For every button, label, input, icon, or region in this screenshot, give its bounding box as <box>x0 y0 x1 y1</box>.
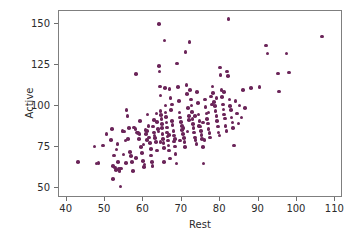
y-tick-mark <box>54 146 58 147</box>
data-point <box>162 146 166 150</box>
data-point <box>231 121 235 125</box>
data-point <box>190 104 194 108</box>
data-point <box>165 121 169 125</box>
data-point <box>220 95 224 99</box>
y-tick-mark <box>54 64 58 65</box>
data-point <box>182 126 186 130</box>
data-point <box>237 122 241 126</box>
data-point <box>249 86 253 90</box>
data-point <box>212 100 216 104</box>
data-point <box>130 160 134 164</box>
data-point <box>186 106 190 110</box>
data-point <box>134 156 138 160</box>
x-tick-label: 90 <box>251 203 264 214</box>
data-point <box>122 130 126 134</box>
data-point <box>162 141 166 145</box>
data-point <box>196 101 200 105</box>
data-point <box>183 140 187 144</box>
data-point <box>116 160 120 164</box>
data-point <box>287 71 291 75</box>
data-point <box>157 22 161 26</box>
data-point <box>225 70 229 74</box>
data-point <box>222 90 226 94</box>
data-point <box>160 126 164 130</box>
data-point <box>165 126 169 130</box>
data-point <box>152 118 156 122</box>
x-tick-mark <box>104 197 105 201</box>
data-point <box>119 185 123 189</box>
data-point <box>167 133 171 137</box>
data-point <box>175 162 179 166</box>
data-point <box>167 149 171 153</box>
data-point <box>266 52 270 56</box>
data-point <box>157 130 161 134</box>
data-point <box>213 104 217 108</box>
data-point <box>207 127 211 131</box>
x-tick-mark <box>334 197 335 201</box>
data-point <box>320 35 324 39</box>
data-point <box>154 140 158 144</box>
data-point <box>153 136 157 140</box>
data-point <box>155 120 159 124</box>
data-point <box>163 39 167 43</box>
data-point <box>128 150 132 154</box>
data-point <box>149 154 153 158</box>
data-point <box>151 164 155 168</box>
data-point <box>186 130 190 134</box>
data-point <box>162 160 166 164</box>
x-tick-label: 60 <box>136 203 149 214</box>
data-point <box>218 134 222 138</box>
data-point <box>101 144 105 148</box>
data-point <box>145 129 149 133</box>
data-point <box>127 126 131 130</box>
data-point <box>232 144 236 148</box>
data-point <box>205 117 209 121</box>
data-point <box>160 117 164 121</box>
data-point <box>169 108 173 112</box>
x-tick-label: 110 <box>325 203 344 214</box>
data-point <box>151 125 155 129</box>
data-point <box>264 44 268 48</box>
y-axis-label: Active <box>24 88 35 119</box>
data-point <box>169 96 173 100</box>
data-point <box>155 149 159 153</box>
x-axis-label: Rest <box>189 219 211 230</box>
data-point <box>164 115 168 119</box>
data-point <box>214 109 218 113</box>
data-point <box>219 73 223 77</box>
data-point <box>189 98 193 102</box>
data-point <box>182 136 186 140</box>
data-point <box>204 105 208 109</box>
scatter-plot-figure: 405060708090100110 5075100125150 Rest Ac… <box>0 0 364 242</box>
data-point <box>185 83 189 87</box>
data-point <box>178 111 182 115</box>
data-point <box>181 132 185 136</box>
data-point <box>209 95 213 99</box>
data-point <box>193 114 197 118</box>
data-point <box>202 162 206 166</box>
data-point <box>172 129 176 133</box>
data-point <box>240 116 244 120</box>
x-tick-label: 80 <box>213 203 226 214</box>
data-point <box>194 138 198 142</box>
data-point <box>191 122 195 126</box>
data-point <box>110 127 114 131</box>
data-point <box>230 116 234 120</box>
data-point <box>111 177 115 181</box>
data-point <box>159 94 163 98</box>
data-point <box>215 119 219 123</box>
data-point <box>164 111 168 115</box>
data-point <box>174 152 178 156</box>
data-point <box>190 110 194 114</box>
data-point <box>178 116 182 120</box>
data-point <box>258 85 262 89</box>
data-point <box>225 129 229 133</box>
x-tick-label: 40 <box>59 203 72 214</box>
data-point <box>187 114 191 118</box>
data-point <box>158 70 162 74</box>
x-tick-mark <box>219 197 220 201</box>
data-point <box>177 99 181 103</box>
data-point <box>199 129 203 133</box>
data-point <box>224 124 228 128</box>
y-tick-label: 150 <box>31 18 50 29</box>
